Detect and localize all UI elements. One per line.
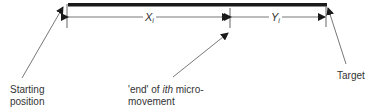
ith-end-label: 'end' of ith micro- movement <box>128 84 204 108</box>
x-dimension-label: Xi <box>143 11 156 27</box>
ith-end-leader <box>173 33 228 77</box>
target-leader <box>328 8 346 64</box>
target-label: Target <box>337 70 365 82</box>
starting-position-leader <box>22 7 63 78</box>
movement-bar <box>68 3 327 7</box>
y-dimension-label: Yi <box>269 11 282 27</box>
starting-position-label: Starting position <box>10 84 44 108</box>
